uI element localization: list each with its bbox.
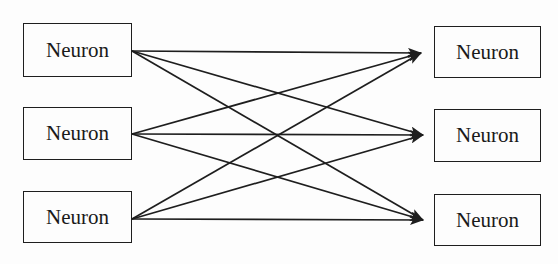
neuron-label: Neuron xyxy=(456,123,519,148)
output-neuron-2: Neuron xyxy=(434,109,541,162)
output-neuron-1: Neuron xyxy=(434,26,541,78)
neuron-label: Neuron xyxy=(46,38,109,63)
neuron-label: Neuron xyxy=(46,121,109,146)
output-neuron-3: Neuron xyxy=(434,194,541,246)
connection-arrow-in1-out1 xyxy=(132,51,421,53)
input-neuron-3: Neuron xyxy=(23,191,132,243)
connection-arrow-in3-out3 xyxy=(132,219,423,220)
neural-network-diagram: Neuron Neuron Neuron Neuron Neuron Neuro… xyxy=(0,0,558,264)
neuron-label: Neuron xyxy=(456,40,519,65)
input-neuron-2: Neuron xyxy=(23,107,132,160)
neuron-label: Neuron xyxy=(456,208,519,233)
neuron-label: Neuron xyxy=(46,205,109,230)
input-neuron-1: Neuron xyxy=(23,23,132,77)
